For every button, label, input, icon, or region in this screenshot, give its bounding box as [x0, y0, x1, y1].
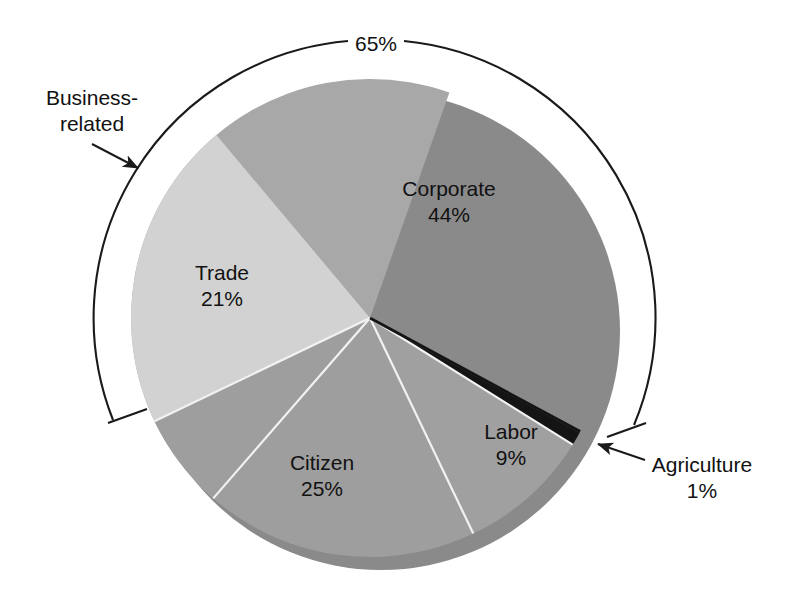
callout-agriculture-value: 1%: [687, 479, 717, 502]
label-corporate-value: 44%: [428, 203, 470, 226]
pie-chart-figure: Corporate 44% Trade 21% Citizen 25% Labo…: [0, 0, 789, 606]
label-citizen-value: 25%: [301, 477, 343, 500]
bracket-tick-right: [607, 423, 646, 437]
callout-agriculture-name: Agriculture: [652, 453, 752, 476]
business-related-arrow: [92, 144, 138, 168]
label-labor-value: 9%: [496, 446, 526, 469]
label-citizen-name: Citizen: [290, 451, 354, 474]
callout-business-line1: Business-: [46, 86, 138, 109]
label-corporate-name: Corporate: [402, 177, 495, 200]
agriculture-callout: Agriculture 1%: [598, 444, 752, 502]
chart-canvas: Corporate 44% Trade 21% Citizen 25% Labo…: [0, 0, 789, 606]
callout-business-line2: related: [60, 112, 124, 135]
bracket-tick-left: [108, 409, 147, 423]
label-trade-name: Trade: [195, 261, 249, 284]
business-related-callout: Business- related: [46, 86, 138, 168]
bracket-label-65: 65%: [355, 32, 397, 55]
label-labor-name: Labor: [484, 420, 538, 443]
agriculture-arrow: [598, 444, 645, 460]
label-trade-value: 21%: [201, 287, 243, 310]
